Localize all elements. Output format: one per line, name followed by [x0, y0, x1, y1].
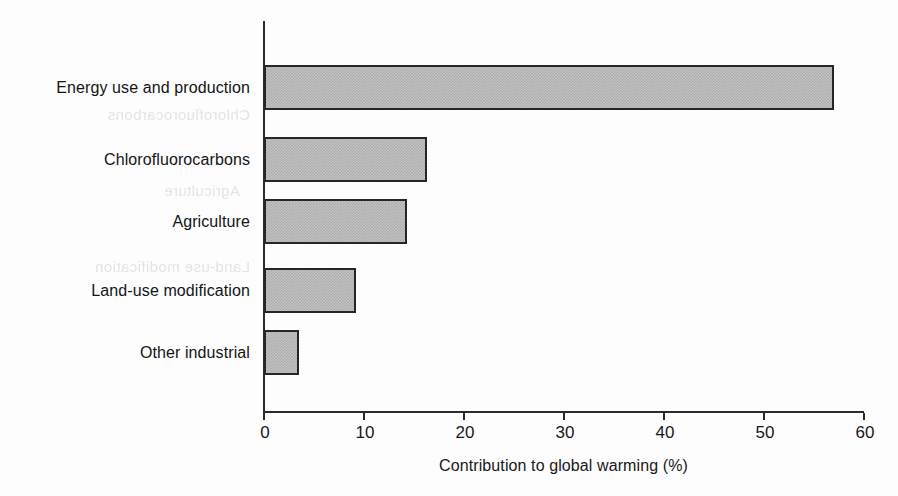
x-axis-tick-mark	[763, 413, 765, 420]
x-axis-tick-mark	[463, 413, 465, 420]
bar-category-label: Energy use and production	[56, 80, 250, 96]
x-axis-tick-label: 40	[640, 423, 690, 443]
x-axis-tick-label: 20	[440, 423, 490, 443]
x-axis-tick-mark	[563, 413, 565, 420]
x-axis-tick-label: 60	[840, 423, 890, 443]
bar-category-label: Chlorofluorocarbons	[104, 152, 250, 168]
bar-category-label: Agriculture	[172, 214, 250, 230]
bar	[264, 268, 356, 313]
bar-category-label: Other industrial	[140, 345, 250, 361]
bar	[264, 199, 407, 244]
chart-page: Chlorofluorocarbons Agriculture Land-use…	[0, 0, 898, 496]
x-axis-tick-mark	[363, 413, 365, 420]
x-axis-tick-mark	[863, 413, 865, 420]
bar-category-label: Land-use modification	[91, 283, 250, 299]
x-axis-title: Contribution to global warming (%)	[263, 457, 864, 475]
x-axis-tick-mark	[663, 413, 665, 420]
bar	[264, 330, 299, 375]
bar	[264, 137, 427, 182]
x-axis-tick-label: 10	[340, 423, 390, 443]
x-axis-tick-mark	[263, 413, 265, 420]
bar-chart: 0102030405060 Energy use and productionC…	[0, 0, 898, 496]
x-axis-tick-label: 0	[240, 423, 290, 443]
x-axis-tick-label: 30	[540, 423, 590, 443]
x-axis-tick-label: 50	[740, 423, 790, 443]
bar	[264, 65, 834, 110]
